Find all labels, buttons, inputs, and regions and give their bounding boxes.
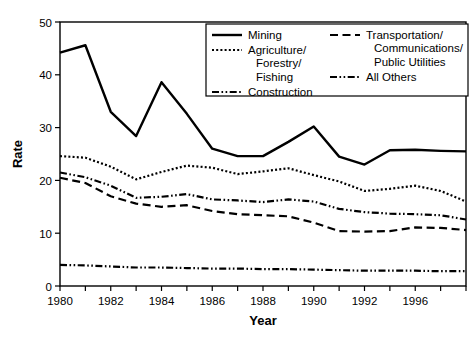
x-tick-label: 1992: [352, 295, 378, 307]
x-tick-label: 1986: [199, 295, 225, 307]
legend-label-4: All Others: [366, 71, 417, 83]
y-tick-label: 30: [39, 122, 52, 134]
legend-label-3: Transportation/: [366, 29, 444, 41]
x-tick-label: 1984: [149, 295, 175, 307]
y-tick-label: 50: [39, 17, 52, 29]
line-chart: 01020304050 1980198219841986198819901992…: [0, 0, 476, 337]
x-tick-label: 1982: [98, 295, 124, 307]
legend-label-0: Mining: [248, 29, 282, 41]
legend-label-1: Agriculture/: [248, 44, 307, 56]
x-tick-label: 1996: [402, 295, 428, 307]
legend-label-3: Public Utilities: [374, 56, 446, 68]
y-tick-label: 20: [39, 175, 52, 187]
x-axis-title: Year: [249, 313, 276, 328]
legend-label-2: Construction: [248, 86, 313, 98]
x-tick-label: 1988: [250, 295, 276, 307]
legend-label-1: Fishing: [256, 71, 293, 83]
x-tick-label: 1980: [47, 295, 73, 307]
y-tick-label: 40: [39, 69, 52, 81]
legend-label-1: Forestry/: [256, 57, 302, 69]
y-tick-label: 0: [46, 281, 52, 293]
x-tick-label: 1990: [301, 295, 327, 307]
chart-legend: MiningAgriculture/Forestry/FishingConstr…: [206, 24, 468, 98]
chart-container: 01020304050 1980198219841986198819901992…: [0, 0, 476, 337]
legend-label-3: Communications/: [374, 42, 464, 54]
y-axis-title: Rate: [10, 140, 25, 168]
y-tick-label: 10: [39, 228, 52, 240]
